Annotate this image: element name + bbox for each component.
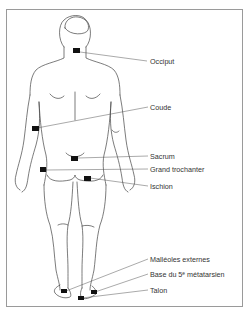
label-coude: Coude [150,104,171,111]
marker-talon [78,296,84,300]
label-ischion: Ischion [150,183,173,190]
label-occiput: Occiput [150,58,174,65]
label-grand-trochanter: Grand trochanter [150,166,204,173]
marker-grand-trochanter [40,167,46,172]
label-malleoles: Malléoles externes [150,256,210,263]
hair-outline [65,17,89,34]
marker-base-metatarsien [91,290,97,294]
label-base-metatarsien: Base du 5ᵉ métatarsien [150,271,225,278]
marker-occiput [73,48,80,53]
marker-malleoles [61,289,67,293]
label-sacrum: Sacrum [150,153,175,160]
marker-coude [32,126,39,131]
marker-ischion [84,176,91,181]
label-talon: Talon [150,287,167,294]
marker-sacrum [71,156,78,161]
